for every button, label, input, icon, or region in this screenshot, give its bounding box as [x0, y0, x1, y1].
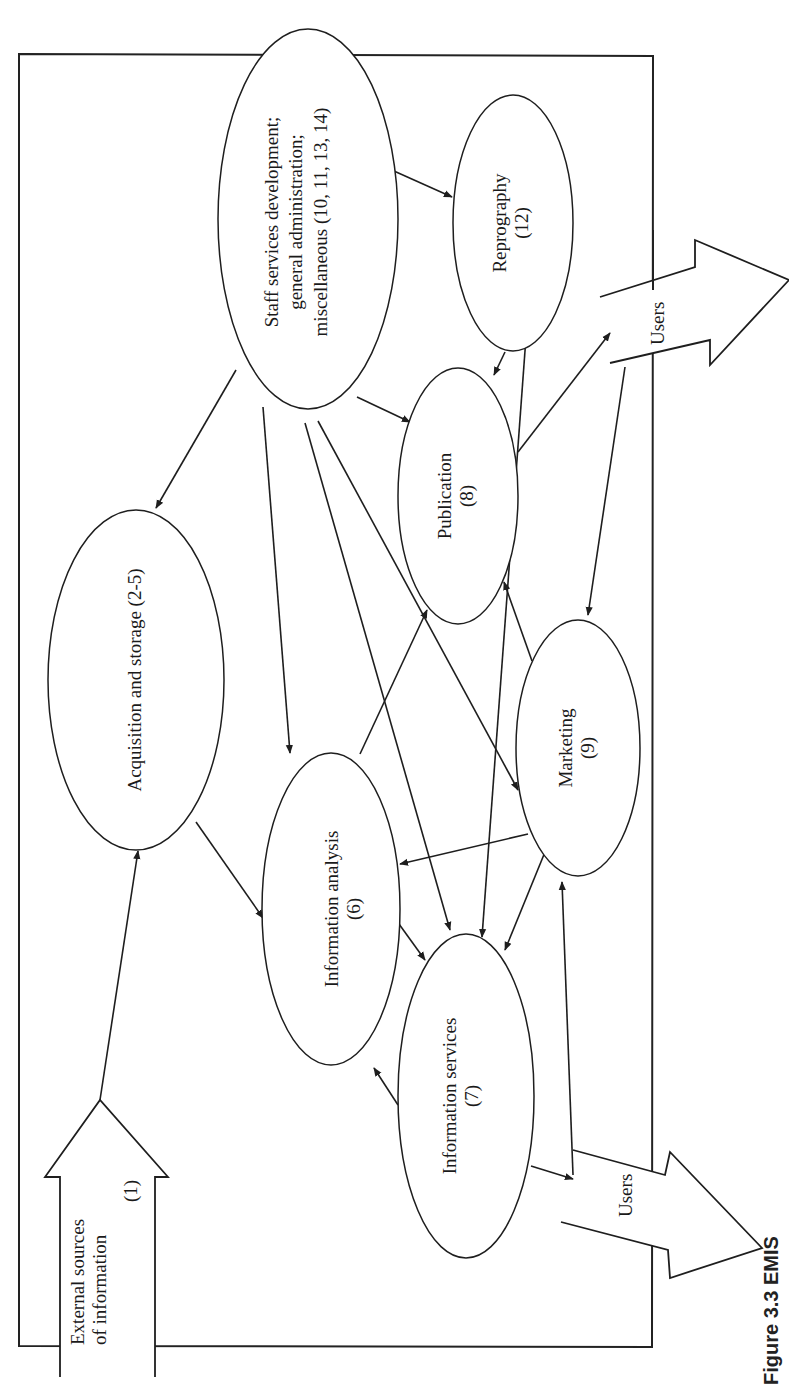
analysis-label: Information analysis: [321, 831, 342, 988]
staff-label-line2: general administration;: [285, 134, 306, 310]
node-information-services: Information services (7): [398, 934, 534, 1258]
staff-label-line1: Staff services development;: [261, 117, 282, 328]
node-information-analysis: Information analysis (6): [262, 753, 400, 1065]
marketing-number: (9): [577, 737, 599, 759]
external-sources-label-line2: of information: [89, 1234, 110, 1345]
services-label: Information services: [439, 1018, 460, 1175]
node-reprography: Reprography (12): [453, 95, 573, 351]
users-output-arrow-bottom: Users: [561, 1150, 762, 1278]
staff-label-line3: miscellaneous (10, 11, 13, 14): [310, 108, 332, 337]
workflow-diagram: External sources of information (1) User…: [0, 0, 789, 1391]
publication-label: Publication: [434, 452, 455, 539]
external-sources-label-line1: External sources: [67, 1219, 88, 1345]
reprography-label: Reprography: [489, 173, 510, 273]
reprography-number: (12): [511, 207, 533, 239]
node-publication: Publication (8): [398, 368, 518, 624]
services-number: (7): [461, 1085, 483, 1107]
users-top-label: Users: [647, 302, 668, 345]
external-sources-number: (1): [120, 1180, 142, 1202]
users-bottom-label: Users: [615, 1174, 636, 1217]
external-sources-arrow: External sources of information (1): [45, 1100, 168, 1377]
users-output-arrow-top: Users: [600, 240, 789, 365]
figure-caption: Figure 3.3 EMIS: [760, 1236, 782, 1385]
analysis-number: (6): [343, 898, 365, 920]
acquisition-label: Acquisition and storage (2-5): [124, 568, 146, 791]
node-marketing: Marketing (9): [516, 620, 640, 876]
publication-number: (8): [456, 485, 478, 507]
node-acquisition: Acquisition and storage (2-5): [48, 510, 224, 850]
marketing-label: Marketing: [555, 708, 576, 788]
node-staff: Staff services development; general admi…: [218, 29, 398, 409]
